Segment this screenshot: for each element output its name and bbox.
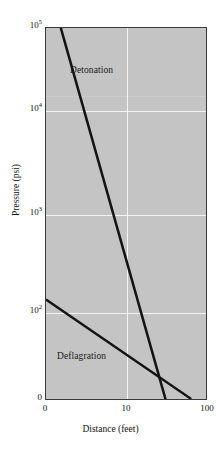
y-axis-ticks: 105 104 103 102 0 xyxy=(0,0,42,450)
series-line-detonation xyxy=(61,28,166,399)
chart-figure: Detonation Deflagration 105 104 103 102 … xyxy=(0,0,221,450)
y-tick-1e2: 102 xyxy=(30,306,42,315)
annotation-deflagration: Deflagration xyxy=(57,351,106,361)
y-tick-1e5: 105 xyxy=(30,21,42,30)
x-axis-title: Distance (feet) xyxy=(0,424,221,434)
x-tick-0: 0 xyxy=(30,403,60,413)
x-tick-10: 10 xyxy=(111,403,141,413)
y-tick-1e3: 103 xyxy=(30,208,42,217)
x-tick-100: 100 xyxy=(192,403,221,413)
series-line-deflagration xyxy=(46,300,191,399)
gridline-h-minor-b xyxy=(46,399,206,400)
y-tick-0: 0 xyxy=(38,393,43,402)
plot-area: Detonation Deflagration xyxy=(45,27,207,400)
series-container xyxy=(46,28,206,399)
y-axis-title: Pressure (psi) xyxy=(11,140,21,240)
y-tick-1e4: 104 xyxy=(30,104,42,113)
annotation-detonation: Detonation xyxy=(70,65,113,75)
